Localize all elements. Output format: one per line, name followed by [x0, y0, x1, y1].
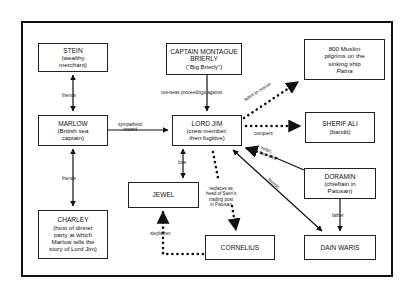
node-cornelius: CORNELIUS	[205, 235, 275, 260]
label-jim-sherif: conquers	[254, 131, 273, 136]
label-cornelius-jewel: stepfather	[150, 231, 170, 236]
edge-doramin-jim	[276, 158, 304, 170]
node-dain-waris: DAIN WARIS	[304, 235, 376, 260]
node-marlow: MARLOW (British sea captain)	[38, 115, 108, 146]
label-stein-marlow: friends	[62, 93, 76, 98]
label-jim-cornelius: replaces as head of Stein's trading post…	[206, 186, 236, 208]
label-marlow-charley: friends	[62, 176, 76, 181]
node-lord-jim: LORD JIM (crew member, then fugitive)	[172, 115, 242, 146]
node-doramin: DORAMIN (chieftain in Patusan)	[304, 168, 376, 199]
node-sherif-ali: SHERIF ALI (bandit)	[305, 112, 375, 143]
node-jewel: JEWEL	[128, 182, 199, 208]
label-marlow-jim: sympathetic toward	[118, 122, 143, 133]
node-pilgrims: 800 Muslim pilgrims on the sinking ship …	[304, 39, 385, 80]
label-brierly-jim: overseas proceedings against	[161, 90, 222, 95]
node-name: STEIN	[63, 47, 82, 54]
node-brierly: CAPTAIN MONTAGUE BRIERLY (“Big Brierly”)	[166, 43, 242, 75]
label-doramin-dain: father	[332, 213, 344, 218]
node-stein: STEIN (wealthy merchant)	[38, 43, 108, 72]
node-charley: CHARLEY (host of dinner party at which M…	[38, 210, 108, 259]
label-jim-jewel: love	[178, 160, 186, 165]
edge-jim-pilgrims	[244, 82, 298, 118]
